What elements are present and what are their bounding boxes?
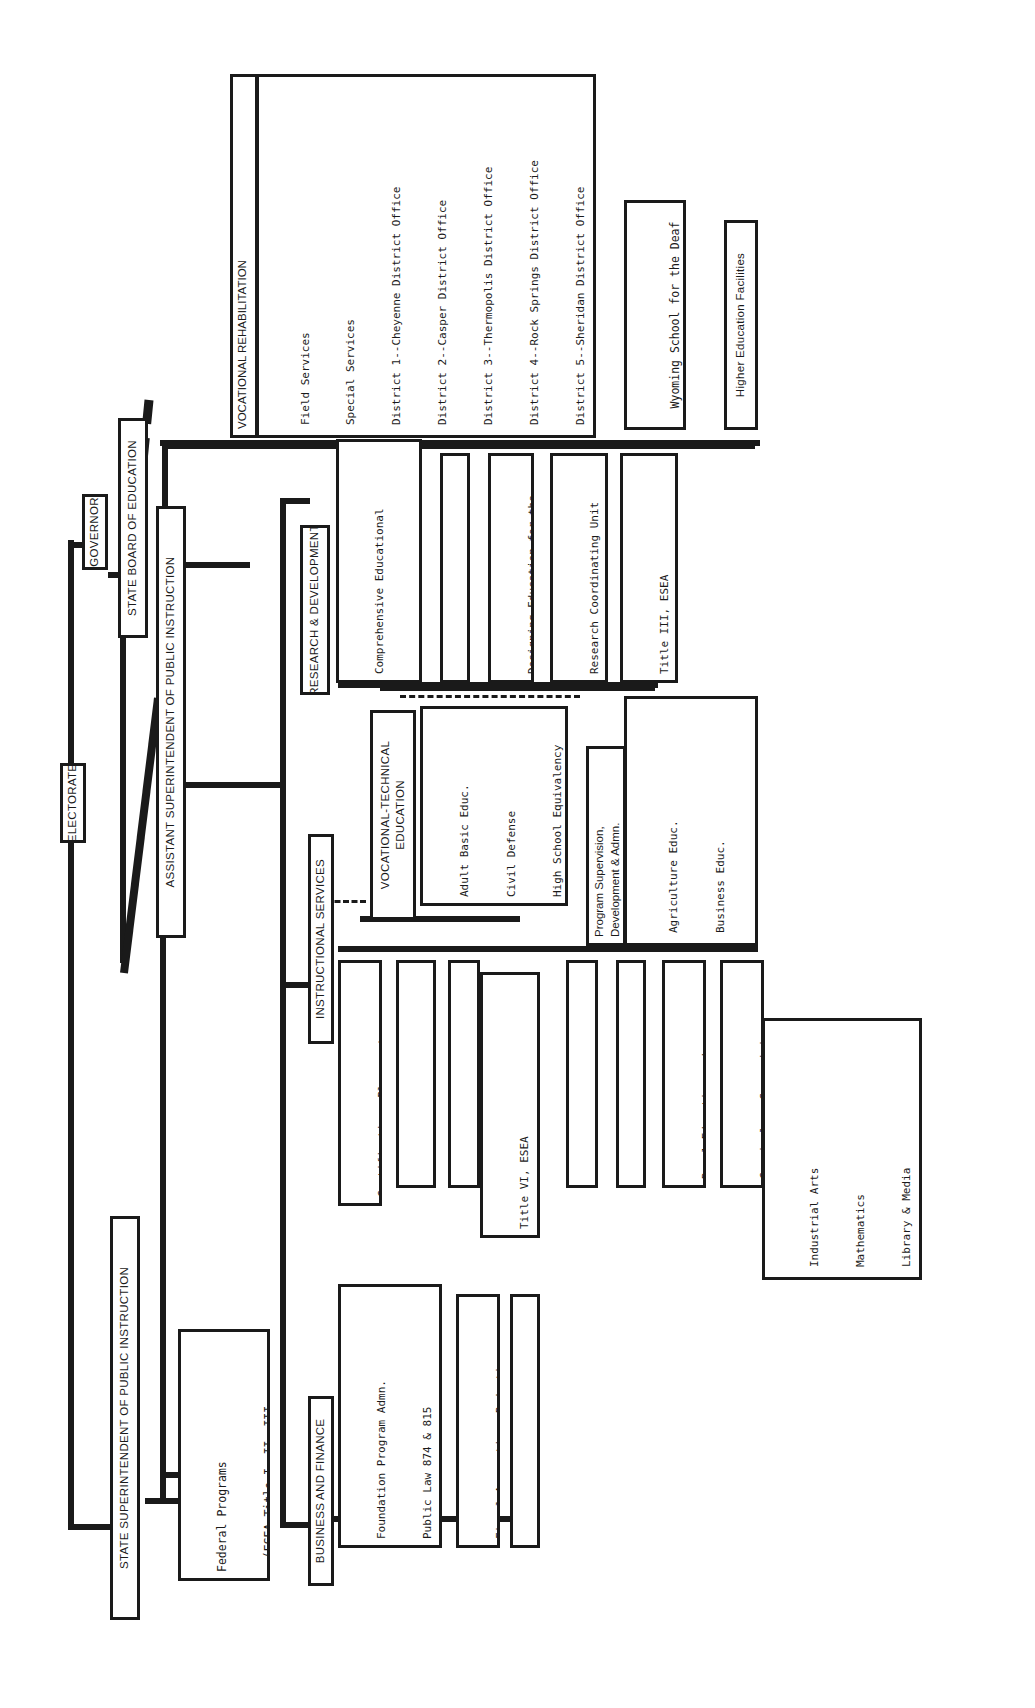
rd-child-box: Title III, ESEA (Program Development & D…: [620, 453, 678, 683]
rd-line: Planning (Sch. Dist. Org: [417, 448, 422, 674]
vocational-technical-box: VOCATIONAL-TECHNICAL EDUCATION: [370, 710, 416, 920]
org-chart: ELECTORATE GOVERNOR STATE BOARD OF EDUCA…: [0, 0, 1035, 1708]
is-line: Certification, Placement: [375, 969, 382, 1197]
is-line: Evaluation &: [433, 969, 436, 1179]
bf-child-box: Fiscal Accounting, Budgeting & Auditing: [456, 1294, 500, 1548]
assistant-superintendent-box: ASSISTANT SUPERINTENDENT OF PUBLIC INSTR…: [156, 506, 186, 938]
rd-child-box: Data Processing: [440, 453, 470, 683]
is-child-box: Pupil Personnel Services: [616, 960, 646, 1188]
bf-child-box: Foundation Program Admn. Public Law 874 …: [338, 1284, 442, 1548]
is-line: Rural Education and: [699, 969, 706, 1179]
vt-line: Adult Basic Educ.: [457, 715, 473, 897]
rd-child-box: Comprehensive Educational Planning (Sch.…: [336, 439, 422, 683]
school-for-deaf-box: Wyoming School for the Deaf Casper, Wyom…: [624, 200, 686, 430]
electorate-box: ELECTORATE: [60, 763, 86, 843]
higher-education-box: Higher Education Facilities: [724, 220, 758, 430]
vocational-rehabilitation-title: VOCATIONAL REHABILITATION: [230, 74, 258, 438]
research-development-box: RESEARCH & DEVELOPMENT: [300, 525, 330, 695]
rd-line: Designing Education for the: [525, 462, 534, 674]
cur-line: Library & Media: [899, 1031, 914, 1267]
vr-line: District 3--Thermopolis District Office: [481, 87, 496, 425]
is-child-box: Evaluation & Accreditation: [396, 960, 436, 1188]
vr-line: Special Services: [343, 87, 358, 425]
bf-child-box: Surplus Property Distribution: [510, 1294, 540, 1548]
ps-line: Agriculture Educ.: [666, 709, 682, 933]
is-child-box: Exceptional Children: [448, 960, 480, 1188]
business-finance-box: BUSINESS AND FINANCE: [308, 1396, 334, 1586]
staff-services-box: Federal Programs (ESEA-Title I, II, III …: [178, 1329, 270, 1581]
program-supervision-box: Program Supervision, Development & Admn.: [586, 746, 626, 946]
vr-line: Field Services: [298, 87, 313, 425]
voc-tech-programs-box: Adult Basic Educ. Civil Defense High Sch…: [420, 706, 568, 906]
state-superintendent-box: STATE SUPERINTENDENT OF PUBLIC INSTRUCTI…: [110, 1216, 140, 1620]
curriculum-sub-box: Industrial Arts Mathematics Library & Me…: [762, 1018, 922, 1280]
vt-line: Civil Defense: [504, 715, 520, 897]
is-child-box: Indian Education: [566, 960, 598, 1188]
cur-line: Mathematics: [853, 1031, 868, 1267]
instructional-services-box: INSTRUCTIONAL SERVICES: [308, 834, 334, 1044]
bf-line: Public Law 874 & 815: [420, 1293, 435, 1539]
cur-line: Industrial Arts: [807, 1031, 822, 1267]
ps-line: Business Educ.: [713, 709, 729, 933]
bf-line: Foundation Program Admn.: [374, 1293, 389, 1539]
rd-child-box: Designing Education for the Future Proje…: [488, 453, 534, 683]
governor-box: GOVERNOR: [82, 494, 108, 570]
is-child-box: Rural Education and Migrant Children: [662, 960, 706, 1188]
rd-line: Research Coordinating Unit: [587, 462, 603, 674]
vr-line: District 4--Rock Springs District Office: [527, 87, 542, 425]
ec-line: Title VI, ESEA: [517, 981, 533, 1229]
rd-line: Title III, ESEA: [657, 462, 673, 674]
staff-line: (ESEA-Title I, II, III: [262, 1338, 271, 1572]
bf-line: Fiscal Accounting, Budgeting: [493, 1303, 500, 1539]
vt-line: High School Equivalency: [550, 715, 566, 897]
staff-line: Federal Programs: [215, 1338, 231, 1572]
state-board-box: STATE BOARD OF EDUCATION: [118, 418, 148, 638]
vocational-rehabilitation-box: Field Services Special Services District…: [256, 74, 596, 438]
vr-line: District 5--Sheridan District Office: [573, 87, 588, 425]
deaf-line: Wyoming School for the Deaf: [668, 217, 684, 413]
is-child-box: Curriculum, Supervision & Development: [720, 960, 764, 1188]
program-supervision-list-box: Agriculture Educ. Business Educ. Distrib…: [624, 696, 758, 946]
exceptional-children-sub-box: Title VI, ESEA Programs for Handicapped …: [480, 972, 540, 1238]
rd-line: Comprehensive Educational: [372, 448, 387, 674]
is-child-box: Certification, Placement and Teacher Edu…: [338, 960, 382, 1206]
vr-line: District 2--Casper District Office: [435, 87, 450, 425]
vr-line: District 1--Cheyenne District Office: [389, 87, 404, 425]
rd-child-box: Research Coordinating Unit (Vocational -…: [550, 453, 608, 683]
